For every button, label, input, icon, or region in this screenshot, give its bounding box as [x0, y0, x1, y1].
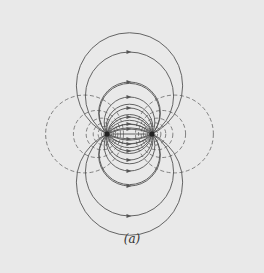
- arrow-right-icon: [127, 122, 132, 126]
- arrow-right-icon: [127, 115, 132, 119]
- arrow-right-icon: [127, 142, 132, 146]
- arrow-right-icon: [127, 169, 132, 173]
- arrow-right-icon: [127, 149, 132, 153]
- arrow-right-icon: [127, 95, 132, 99]
- arrow-right-icon: [127, 214, 132, 218]
- source-charge-icon: [104, 131, 109, 136]
- arrow-right-icon: [127, 158, 132, 162]
- sink-charge-icon: [149, 131, 154, 136]
- arrow-right-icon: [127, 106, 132, 110]
- figure-caption: (a): [0, 232, 264, 246]
- arrow-right-icon: [127, 50, 132, 54]
